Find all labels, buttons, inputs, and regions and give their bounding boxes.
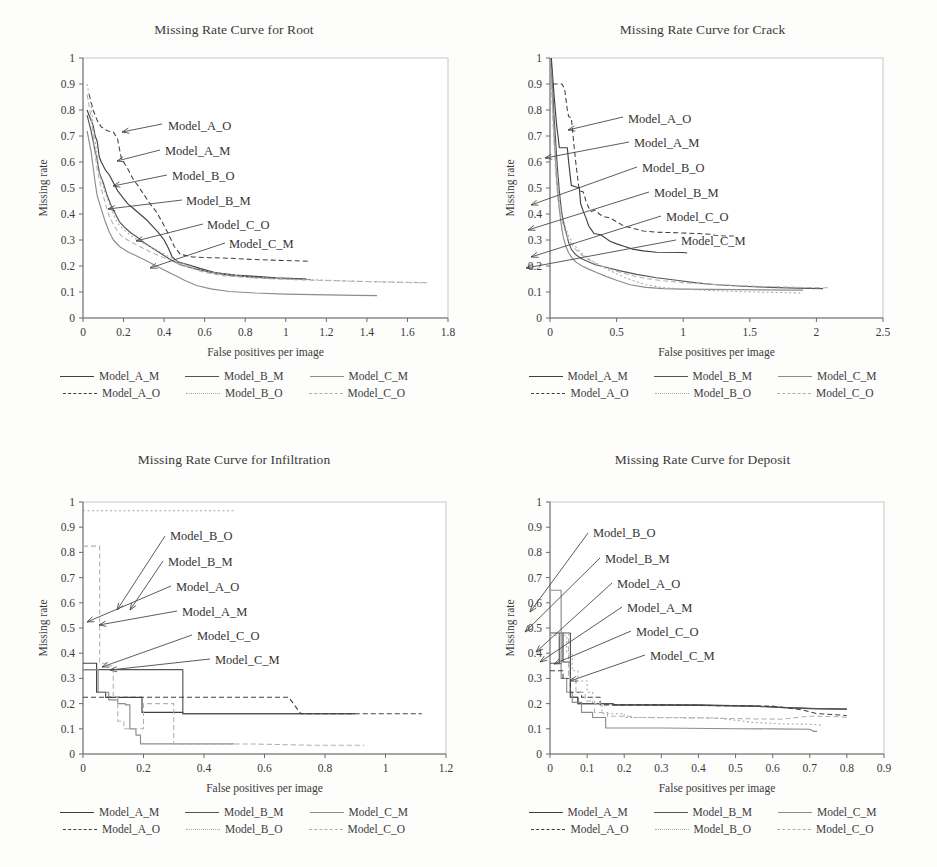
y-tick-label: 0.8 bbox=[528, 104, 543, 116]
y-tick-label: 0.3 bbox=[61, 234, 76, 246]
x-tick-label: 0.8 bbox=[238, 326, 253, 338]
y-tick-label: 0.9 bbox=[528, 78, 543, 90]
x-tick-label: 0 bbox=[80, 762, 86, 774]
legend-item[interactable]: Model_A_O bbox=[63, 387, 160, 399]
x-tick-label: 0.2 bbox=[617, 762, 632, 774]
legend-item[interactable]: Model_B_O bbox=[186, 823, 283, 835]
legend-item[interactable]: Model_A_O bbox=[63, 823, 160, 835]
x-tick-label: 0.6 bbox=[197, 326, 212, 338]
y-tick-label: 0.9 bbox=[61, 521, 76, 533]
y-tick-label: 0.8 bbox=[61, 546, 76, 558]
curve-annotation-label: Model_A_M bbox=[627, 601, 692, 615]
y-tick-label: 0.3 bbox=[61, 672, 76, 684]
x-tick-label: 0.4 bbox=[691, 762, 706, 774]
legend-item[interactable]: Model_C_M bbox=[778, 370, 876, 382]
legend-item[interactable]: Model_B_M bbox=[185, 806, 283, 818]
legend-label: Model_B_M bbox=[224, 806, 283, 818]
legend-swatch-icon bbox=[60, 376, 94, 377]
x-tick-label: 0.6 bbox=[257, 762, 272, 774]
y-tick-label: 0.7 bbox=[61, 572, 76, 584]
legend-item[interactable]: Model_B_M bbox=[654, 370, 752, 382]
legend-item[interactable]: Model_C_O bbox=[309, 387, 406, 399]
x-tick-label: 0.7 bbox=[803, 762, 818, 774]
legend-label: Model_B_O bbox=[225, 823, 283, 835]
y-tick-label: 0 bbox=[69, 748, 75, 760]
legend-item[interactable]: Model_C_O bbox=[309, 823, 406, 835]
legend-row: Model_A_MModel_B_MModel_C_M bbox=[468, 806, 937, 818]
y-axis-title: Missing rate bbox=[37, 159, 50, 216]
legend-item[interactable]: Model_A_M bbox=[60, 370, 159, 382]
legend-label: Model_C_O bbox=[816, 387, 874, 399]
y-tick-label: 0.9 bbox=[61, 78, 76, 90]
legend-label: Model_C_O bbox=[348, 387, 406, 399]
y-tick-label: 0.2 bbox=[528, 698, 543, 710]
y-axis-title: Missing rate bbox=[37, 599, 50, 656]
y-tick-label: 0.5 bbox=[528, 182, 543, 194]
legend-swatch-icon bbox=[529, 812, 563, 813]
legend-item[interactable]: Model_B_O bbox=[186, 387, 283, 399]
x-tick-label: 0 bbox=[547, 762, 553, 774]
y-tick-label: 0.4 bbox=[528, 208, 543, 220]
legend-label: Model_B_O bbox=[694, 823, 752, 835]
legend-item[interactable]: Model_C_M bbox=[778, 806, 876, 818]
legend-item[interactable]: Model_A_M bbox=[529, 370, 628, 382]
chart-panel-infiltration: Missing Rate Curve for Infiltration 00.1… bbox=[0, 440, 468, 867]
x-tick-label: 0.3 bbox=[654, 762, 669, 774]
legend-item[interactable]: Model_C_M bbox=[310, 806, 408, 818]
curve-annotation-label: Model_C_M bbox=[215, 653, 280, 667]
x-tick-label: 0 bbox=[80, 326, 86, 338]
legend-label: Model_A_M bbox=[99, 806, 159, 818]
chart-panel-deposit: Missing Rate Curve for Deposit 00.10.20.… bbox=[468, 440, 937, 867]
curve-annotation-label: Model_B_M bbox=[186, 194, 251, 208]
y-axis-title: Missing rate bbox=[504, 599, 517, 656]
x-tick-label: 1.8 bbox=[441, 326, 456, 338]
y-tick-label: 0.6 bbox=[528, 156, 543, 168]
legend-item[interactable]: Model_C_O bbox=[777, 823, 874, 835]
y-tick-label: 0.5 bbox=[528, 622, 543, 634]
y-tick-label: 0.9 bbox=[528, 521, 543, 533]
x-tick-label: 0.4 bbox=[157, 326, 172, 338]
legend-item[interactable]: Model_B_M bbox=[185, 370, 283, 382]
y-tick-label: 0.8 bbox=[528, 546, 543, 558]
legend-label: Model_C_M bbox=[349, 806, 408, 818]
x-tick-label: 1.6 bbox=[400, 326, 415, 338]
legend-label: Model_A_M bbox=[99, 370, 159, 382]
y-tick-label: 1 bbox=[536, 52, 542, 64]
y-tick-label: 0.7 bbox=[528, 130, 543, 142]
y-tick-label: 0.5 bbox=[61, 622, 76, 634]
chart-svg: 00.10.20.30.40.50.60.70.80.9100.10.20.30… bbox=[468, 440, 937, 867]
legend-label: Model_B_M bbox=[693, 370, 752, 382]
chart-legend: Model_A_MModel_B_MModel_C_MModel_A_OMode… bbox=[468, 370, 937, 404]
curve-annotation-label: Model_B_O bbox=[642, 161, 705, 175]
legend-item[interactable]: Model_B_O bbox=[655, 387, 752, 399]
legend-label: Model_B_O bbox=[694, 387, 752, 399]
curve-annotation-label: Model_C_O bbox=[636, 625, 699, 639]
legend-item[interactable]: Model_B_M bbox=[654, 806, 752, 818]
legend-swatch-icon bbox=[185, 812, 219, 813]
y-tick-label: 0.4 bbox=[61, 208, 76, 220]
legend-swatch-icon bbox=[654, 812, 688, 813]
legend-label: Model_B_M bbox=[693, 806, 752, 818]
curve-annotation-label: Model_B_M bbox=[654, 186, 719, 200]
legend-item[interactable]: Model_A_O bbox=[531, 387, 628, 399]
y-tick-label: 0 bbox=[536, 312, 542, 324]
legend-item[interactable]: Model_C_O bbox=[777, 387, 874, 399]
legend-item[interactable]: Model_A_O bbox=[531, 823, 628, 835]
legend-label: Model_C_O bbox=[816, 823, 874, 835]
legend-item[interactable]: Model_B_O bbox=[655, 823, 752, 835]
legend-swatch-icon bbox=[309, 829, 343, 830]
x-tick-label: 0.1 bbox=[580, 762, 595, 774]
legend-item[interactable]: Model_C_M bbox=[310, 370, 408, 382]
x-axis-title: False positives per image bbox=[207, 346, 324, 359]
y-tick-label: 0.3 bbox=[528, 672, 543, 684]
legend-item[interactable]: Model_A_M bbox=[60, 806, 159, 818]
x-tick-label: 1 bbox=[680, 326, 686, 338]
y-tick-label: 0.1 bbox=[528, 723, 543, 735]
legend-item[interactable]: Model_A_M bbox=[529, 806, 628, 818]
x-tick-label: 0 bbox=[547, 326, 553, 338]
y-tick-label: 0.4 bbox=[528, 647, 543, 659]
legend-label: Model_A_O bbox=[102, 387, 160, 399]
y-tick-label: 1 bbox=[69, 496, 75, 508]
legend-swatch-icon bbox=[309, 393, 343, 394]
y-tick-label: 0 bbox=[536, 748, 542, 760]
